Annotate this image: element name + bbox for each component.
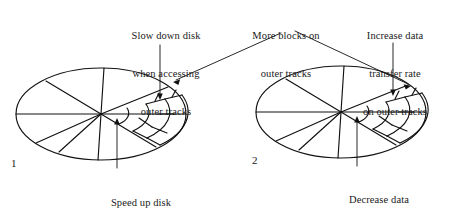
disk-2-number: 2 [252,155,258,166]
annotation-line: outer tracks [231,68,341,81]
annotation-line: transfer rate [340,68,450,81]
annotation-line: on outer tracks [340,106,450,119]
annotation-line: Slow down disk [107,30,225,43]
annotation-line: outer tracks [107,106,225,119]
annotation-more-blocks: More blocks on outer tracks [231,5,341,106]
annotation-line: Decrease data [320,194,438,207]
annotation-speed-up-disk: Speed up disk when accessing inner track… [82,172,200,214]
disk-1-number: 1 [11,158,17,169]
annotation-line: Increase data [340,30,450,43]
annotation-line: Speed up disk [82,197,200,210]
annotation-increase-rate: Increase data transfer rate on outer tra… [340,5,450,144]
annotation-slow-down-disk: Slow down disk when accessing outer trac… [107,5,225,144]
annotation-line: when accessing [107,68,225,81]
annotation-line: More blocks on [231,30,341,43]
disk-diagram-figure: Slow down disk when accessing outer trac… [0,0,454,214]
annotation-decrease-rate: Decrease data transfer rate on inner tra… [320,169,438,214]
